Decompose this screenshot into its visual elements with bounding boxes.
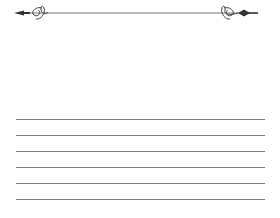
writing-line-3: [16, 151, 265, 152]
writing-line-2: [16, 135, 265, 136]
flourish-divider-icon: [0, 0, 280, 28]
writing-line-4: [16, 167, 265, 168]
writing-line-1: [16, 119, 265, 120]
writing-line-5: [16, 183, 265, 184]
writing-line-6: [16, 199, 265, 200]
